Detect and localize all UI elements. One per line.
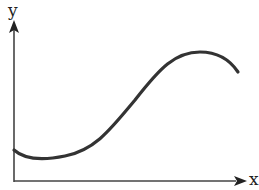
y-axis-label: y — [8, 2, 18, 19]
function-curve — [14, 52, 238, 158]
x-axis-label: x — [249, 171, 259, 188]
diagram-canvas — [0, 0, 259, 190]
